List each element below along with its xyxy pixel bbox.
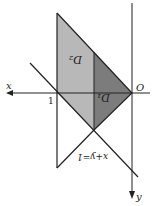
figure-svg: x O y 1 D₂ D₁ x+y=1 [0, 0, 158, 206]
line-label: x+y=1 [77, 152, 108, 162]
d2-label: D₂ [69, 53, 83, 66]
d1-label: D₁ [97, 91, 111, 104]
y-arrow-icon [129, 191, 135, 199]
region-d2 [57, 13, 94, 130]
x-label: x [6, 80, 12, 91]
tick-label: 1 [48, 96, 54, 106]
y-label: y [135, 191, 142, 202]
diagram: x O y 1 D₂ D₁ x+y=1 [0, 0, 158, 206]
origin-label: O [136, 82, 144, 93]
region-d1 [94, 52, 132, 130]
